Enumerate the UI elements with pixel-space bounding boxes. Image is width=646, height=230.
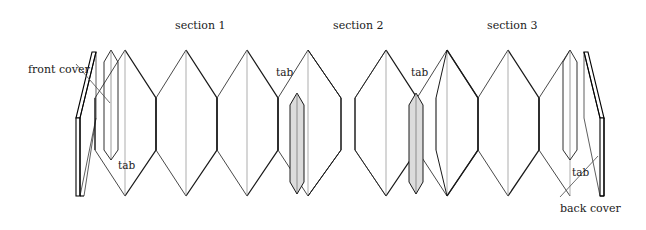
tab-label-1: tab xyxy=(118,160,135,171)
tab-strip-1 xyxy=(104,50,118,160)
section-2-folds xyxy=(308,50,478,196)
tab-strip-2-stippled xyxy=(290,93,304,194)
section-2-label: section 2 xyxy=(333,20,383,31)
section-3-folds xyxy=(436,50,570,196)
tab-label-3: tab xyxy=(411,67,428,78)
section-1-label: section 1 xyxy=(175,20,225,31)
back-cover-label: back cover xyxy=(560,203,621,214)
tab-strip-4 xyxy=(563,50,577,160)
tab-label-2: tab xyxy=(276,67,293,78)
diagram-page: section 1 section 2 section 3 front cove… xyxy=(0,0,646,230)
tab-label-4: tab xyxy=(572,167,589,178)
section-3-label: section 3 xyxy=(487,20,537,31)
accordion-book-diagram xyxy=(0,0,646,230)
front-cover-label: front cover xyxy=(28,64,90,75)
tab-strip-3-stippled xyxy=(409,93,423,194)
